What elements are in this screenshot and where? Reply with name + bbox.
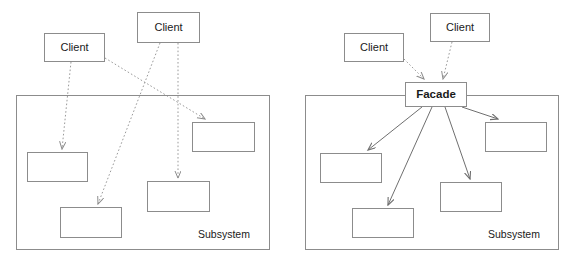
client-box-with-facade-2: Client xyxy=(430,13,490,42)
subsystem-component-with-facade-3 xyxy=(440,182,502,212)
edge-with-facade-client-top-to-facade xyxy=(443,42,452,79)
subsystem-component-without-facade-3 xyxy=(147,181,210,212)
client-box-with-facade-1: Client xyxy=(344,33,404,62)
subsystem-component-with-facade-2 xyxy=(352,208,414,238)
subsystem-component-without-facade-2 xyxy=(60,207,122,238)
facade-box: Facade xyxy=(405,82,467,107)
client-label: Client xyxy=(360,42,388,53)
subsystem-component-with-facade-1 xyxy=(320,153,382,183)
facade-label: Facade xyxy=(416,89,456,101)
client-box-without-facade-1: Client xyxy=(44,33,105,62)
subsystem-label-without-facade: Subsystem xyxy=(198,228,250,240)
client-label: Client xyxy=(60,42,88,53)
client-box-without-facade-2: Client xyxy=(137,12,200,43)
edge-with-facade-client-left-to-facade xyxy=(404,59,424,79)
subsystem-component-without-facade-4 xyxy=(192,122,255,152)
facade-pattern-diagram: SubsystemClientClientSubsystemClientClie… xyxy=(0,0,570,267)
client-label: Client xyxy=(154,22,182,33)
client-label: Client xyxy=(446,22,474,33)
subsystem-component-with-facade-4 xyxy=(485,122,547,152)
subsystem-label-with-facade: Subsystem xyxy=(488,228,540,240)
subsystem-component-without-facade-1 xyxy=(27,152,88,182)
